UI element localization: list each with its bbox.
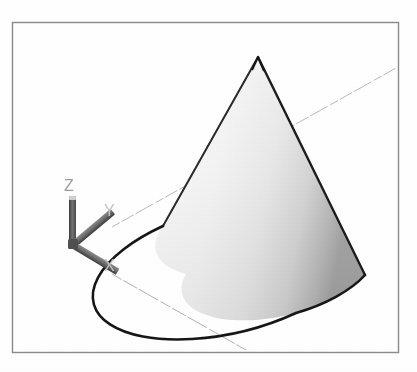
axis-arm-z-cap	[69, 196, 76, 200]
cone-geometry[interactable]	[93, 57, 365, 340]
cone-surface-tonal-overlay	[155, 57, 365, 320]
cad-viewport[interactable]: Z Y X	[0, 0, 417, 372]
axis-label-y: Y	[104, 202, 115, 219]
axis-label-z: Z	[64, 177, 74, 194]
axis-arm-z[interactable]	[69, 196, 76, 246]
axis-triad-origin	[68, 239, 78, 249]
axis-triad[interactable]: Z Y X	[64, 177, 119, 275]
3d-scene: Z Y X	[0, 0, 417, 372]
axis-label-x: X	[104, 257, 115, 274]
